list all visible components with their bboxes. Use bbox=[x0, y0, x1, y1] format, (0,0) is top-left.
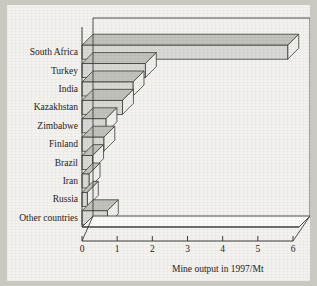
category-label: Iran bbox=[63, 176, 78, 186]
tick-label: 3 bbox=[180, 244, 196, 254]
tick-label: 2 bbox=[144, 244, 160, 254]
category-axis-labels: South AfricaTurkeyIndiaKazakhstanZimbabw… bbox=[7, 5, 78, 245]
chart-figure: South AfricaTurkeyIndiaKazakhstanZimbabw… bbox=[7, 5, 310, 281]
bars-group bbox=[82, 34, 299, 225]
category-label: South Africa bbox=[30, 47, 78, 57]
category-label: Zimbabwe bbox=[37, 121, 78, 131]
category-label: Brazil bbox=[55, 158, 78, 168]
category-label: Finland bbox=[49, 139, 78, 149]
tick-label: 6 bbox=[285, 244, 301, 254]
category-label: Kazakhstan bbox=[34, 102, 78, 112]
category-label: Turkey bbox=[51, 66, 78, 76]
category-label: India bbox=[58, 84, 78, 94]
tick-label: 1 bbox=[109, 244, 125, 254]
x-axis-title: Mine output in 1997/Mt bbox=[172, 264, 264, 275]
category-label: Russia bbox=[53, 194, 78, 204]
tick-label: 5 bbox=[250, 244, 266, 254]
tick-label: 4 bbox=[215, 244, 231, 254]
category-label: Other countries bbox=[19, 213, 78, 223]
tick-label: 0 bbox=[74, 244, 90, 254]
